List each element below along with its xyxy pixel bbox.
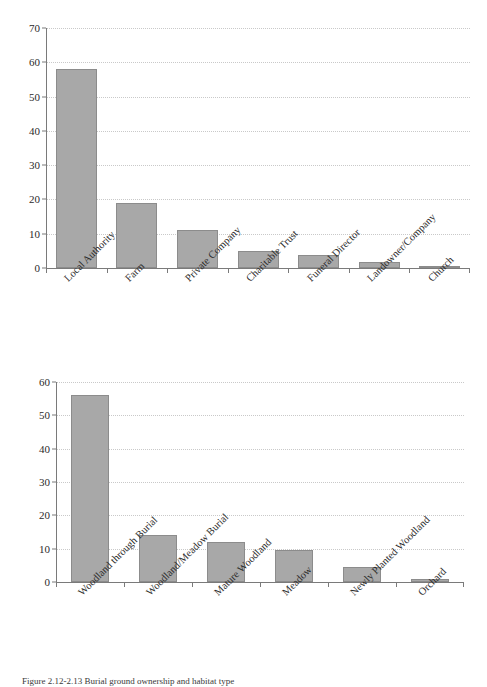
- ownership-x-tick: [46, 268, 47, 273]
- ownership-bar: [56, 69, 97, 268]
- ownership-x-tick: [107, 268, 108, 273]
- ownership-x-tick: [228, 268, 229, 273]
- ownership-bar: [116, 203, 157, 268]
- habitat-y-tick-label: 30: [39, 477, 50, 488]
- habitat-x-tick: [328, 582, 329, 587]
- ownership-bar-slot: [46, 28, 107, 268]
- habitat-y-tick-label: 0: [45, 577, 51, 588]
- habitat-bar: [71, 395, 109, 582]
- ownership-y-tick-label: 60: [29, 57, 40, 68]
- habitat-plot-area: 0102030405060 Woodland through BurialWoo…: [56, 382, 464, 582]
- ownership-x-tick: [349, 268, 350, 273]
- habitat-x-tick: [463, 582, 464, 587]
- ownership-y-tick-label: 40: [29, 125, 40, 136]
- ownership-bar-slot: [288, 28, 349, 268]
- ownership-y-tick-label: 70: [29, 23, 40, 34]
- ownership-x-tick: [288, 268, 289, 273]
- ownership-bar-chart: 010203040506070 Local AuthorityFarmPriva…: [0, 0, 487, 350]
- ownership-plot-area: 010203040506070 Local AuthorityFarmPriva…: [46, 28, 470, 268]
- habitat-bar-slot: [396, 382, 464, 582]
- ownership-y-tick-label: 50: [29, 91, 40, 102]
- ownership-y-tick-label: 30: [29, 160, 40, 171]
- ownership-x-tick: [409, 268, 410, 273]
- ownership-y-tick-label: 20: [29, 194, 40, 205]
- habitat-y-tick-label: 40: [39, 443, 50, 454]
- habitat-x-tick: [124, 582, 125, 587]
- ownership-x-tick: [469, 268, 470, 273]
- habitat-bar-chart: 0102030405060 Woodland through BurialWoo…: [0, 360, 487, 670]
- habitat-y-tick-label: 60: [39, 377, 50, 388]
- ownership-bar-slot: [167, 28, 228, 268]
- habitat-x-tick: [260, 582, 261, 587]
- habitat-bar-slot: [260, 382, 328, 582]
- habitat-y-tick-label: 10: [39, 543, 50, 554]
- habitat-x-tick: [56, 582, 57, 587]
- ownership-bar-slot: [107, 28, 168, 268]
- ownership-y-tick-label: 10: [29, 228, 40, 239]
- ownership-y-tick-label: 0: [35, 263, 41, 274]
- habitat-x-tick: [192, 582, 193, 587]
- habitat-x-ticks: [56, 582, 464, 587]
- figure-caption: Figure 2.12-2.13 Burial ground ownership…: [22, 676, 472, 687]
- ownership-x-tick: [167, 268, 168, 273]
- habitat-x-tick: [396, 582, 397, 587]
- habitat-y-tick-label: 50: [39, 410, 50, 421]
- habitat-y-tick-label: 20: [39, 510, 50, 521]
